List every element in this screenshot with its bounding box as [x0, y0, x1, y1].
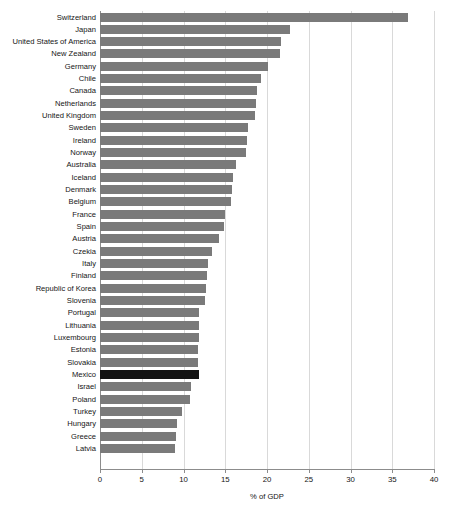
category-label: Iceland — [0, 173, 96, 182]
bar — [100, 407, 182, 416]
bar — [100, 222, 224, 231]
bar-row — [100, 86, 434, 95]
category-label: Italy — [0, 259, 96, 268]
bar-row — [100, 173, 434, 182]
bar — [100, 419, 177, 428]
category-label: United Kingdom — [0, 111, 96, 120]
bar — [100, 25, 290, 34]
bar-row — [100, 210, 434, 219]
x-axis-tick-label: 40 — [430, 475, 439, 485]
category-axis-labels: SwitzerlandJapanUnited States of America… — [0, 11, 96, 469]
bar — [100, 247, 212, 256]
category-label: Slovakia — [0, 358, 96, 367]
category-label: Japan — [0, 25, 96, 34]
bar — [100, 13, 408, 22]
bar — [100, 86, 257, 95]
category-label: Canada — [0, 86, 96, 95]
category-label: Slovenia — [0, 296, 96, 305]
bar — [100, 308, 199, 317]
bar-row — [100, 148, 434, 157]
bar — [100, 345, 198, 354]
bar-row — [100, 333, 434, 342]
category-label: France — [0, 210, 96, 219]
bar — [100, 37, 281, 46]
bar-row — [100, 234, 434, 243]
bar-row — [100, 308, 434, 317]
x-axis-tick-label: 15 — [221, 475, 230, 485]
category-label: Poland — [0, 395, 96, 404]
bar-row — [100, 296, 434, 305]
bar — [100, 395, 190, 404]
category-label: Lithuania — [0, 321, 96, 330]
category-label: Czekia — [0, 247, 96, 256]
x-axis-tick-label: 35 — [388, 475, 397, 485]
bar-row — [100, 62, 434, 71]
bar — [100, 321, 199, 330]
bar — [100, 284, 206, 293]
x-axis-tick-label: 20 — [263, 475, 272, 485]
category-label: Republic of Korea — [0, 284, 96, 293]
category-label: Finland — [0, 271, 96, 280]
bar — [100, 234, 219, 243]
category-label: Belgium — [0, 197, 96, 206]
x-axis-tick — [351, 469, 352, 473]
category-label: Portugal — [0, 308, 96, 317]
category-label: Luxembourg — [0, 333, 96, 342]
category-label: Greece — [0, 432, 96, 441]
bar — [100, 49, 280, 58]
category-label: Hungary — [0, 419, 96, 428]
bar-row — [100, 358, 434, 367]
bar-row — [100, 99, 434, 108]
bar-row — [100, 395, 434, 404]
bar-row — [100, 37, 434, 46]
bar-row — [100, 74, 434, 83]
category-label: Norway — [0, 148, 96, 157]
category-label: Australia — [0, 160, 96, 169]
bar — [100, 136, 247, 145]
bar — [100, 197, 231, 206]
bar-row — [100, 271, 434, 280]
bar-row — [100, 382, 434, 391]
bar — [100, 62, 268, 71]
bar-row — [100, 185, 434, 194]
bar — [100, 74, 261, 83]
bar — [100, 259, 208, 268]
x-axis-tick — [434, 469, 435, 473]
bar-row — [100, 284, 434, 293]
x-axis-tick — [309, 469, 310, 473]
bar-row — [100, 136, 434, 145]
x-axis-tick — [225, 469, 226, 473]
bar — [100, 444, 175, 453]
bar — [100, 210, 225, 219]
bar — [100, 148, 246, 157]
category-label: Ireland — [0, 136, 96, 145]
bar-row — [100, 13, 434, 22]
bar-row — [100, 49, 434, 58]
category-label: United States of America — [0, 37, 96, 46]
x-axis-tick — [267, 469, 268, 473]
bar — [100, 358, 198, 367]
x-axis-tick-label: 10 — [179, 475, 188, 485]
bar-row — [100, 222, 434, 231]
bar-row — [100, 407, 434, 416]
category-label: Sweden — [0, 123, 96, 132]
bar-row — [100, 123, 434, 132]
bar — [100, 185, 232, 194]
x-axis-tick — [184, 469, 185, 473]
bar — [100, 370, 199, 379]
category-label: Chile — [0, 74, 96, 83]
x-axis-tick-label: 5 — [140, 475, 144, 485]
x-axis-tick-label: 30 — [346, 475, 355, 485]
x-axis-tick-label: 25 — [304, 475, 313, 485]
bar-row — [100, 370, 434, 379]
bar — [100, 432, 176, 441]
bar-row — [100, 111, 434, 120]
plot-area — [100, 11, 434, 469]
x-axis-tick-label: 0 — [98, 475, 102, 485]
bar — [100, 382, 191, 391]
bar-row — [100, 432, 434, 441]
bar — [100, 99, 256, 108]
x-axis-tick — [100, 469, 101, 473]
gridline — [434, 11, 435, 469]
x-axis-title: % of GDP — [100, 492, 434, 501]
